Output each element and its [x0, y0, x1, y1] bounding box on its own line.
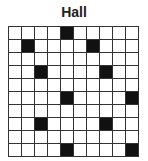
grid-cell [100, 105, 113, 118]
grid-cell [113, 131, 126, 144]
grid-cell [100, 131, 113, 144]
grid-cell [126, 40, 139, 53]
grid-cell [87, 53, 100, 66]
grid-cell [126, 27, 139, 40]
grid-cell [87, 79, 100, 92]
grid-cell [126, 53, 139, 66]
grid-cell [22, 53, 35, 66]
grid-cell [100, 53, 113, 66]
grid-cell [48, 105, 61, 118]
grid-cell [35, 40, 48, 53]
grid-cell [22, 131, 35, 144]
grid-cell [9, 131, 22, 144]
grid-cell [87, 105, 100, 118]
grid-cell [74, 131, 87, 144]
grid-cell [35, 92, 48, 105]
grid-cell [126, 79, 139, 92]
grid-cell [100, 144, 113, 157]
grid-cell [22, 144, 35, 157]
grid-cell [35, 144, 48, 157]
grid-cell [87, 118, 100, 131]
grid-cell [113, 118, 126, 131]
grid-cell [61, 105, 74, 118]
grid-cell [22, 105, 35, 118]
grid-cell-filled [126, 92, 139, 105]
grid-cell [126, 131, 139, 144]
grid-cell [74, 66, 87, 79]
grid-cell [22, 118, 35, 131]
grid-cell [126, 66, 139, 79]
grid-cell [74, 53, 87, 66]
grid-cell [22, 92, 35, 105]
grid-cell [61, 40, 74, 53]
grid-cell [48, 40, 61, 53]
grid-cell [9, 144, 22, 157]
grid-cell-filled [126, 144, 139, 157]
grid-cell [113, 66, 126, 79]
grid-cell [48, 92, 61, 105]
grid-cell-filled [100, 66, 113, 79]
grid-cell [9, 79, 22, 92]
grid-cell [35, 131, 48, 144]
grid-cell [74, 40, 87, 53]
grid-cell [74, 27, 87, 40]
grid-cell [113, 92, 126, 105]
grid-cell [74, 105, 87, 118]
grid-cell [113, 144, 126, 157]
grid-cell [48, 118, 61, 131]
grid-cell [48, 27, 61, 40]
grid-cell [9, 92, 22, 105]
grid-cell [113, 53, 126, 66]
grid-cell-filled [35, 118, 48, 131]
grid-cell-filled [100, 118, 113, 131]
grid-cell [100, 40, 113, 53]
grid-cell [35, 53, 48, 66]
grid-cell [61, 66, 74, 79]
grid-cell [87, 27, 100, 40]
grid-cell [48, 144, 61, 157]
grid-cell [100, 27, 113, 40]
grid-cell [61, 118, 74, 131]
grid-cell [48, 53, 61, 66]
grid-cell [22, 66, 35, 79]
grid-cell-filled [61, 27, 74, 40]
grid-cell [9, 40, 22, 53]
grid-cell [113, 40, 126, 53]
grid-cell [61, 53, 74, 66]
diagram-title: Hall [0, 4, 148, 20]
grid-cell [74, 144, 87, 157]
grid-cell [87, 131, 100, 144]
grid-cell [9, 53, 22, 66]
grid-cell [48, 66, 61, 79]
grid-cell [35, 105, 48, 118]
grid-cell [35, 79, 48, 92]
grid-cell [113, 79, 126, 92]
grid-cell [48, 79, 61, 92]
grid-cell [126, 118, 139, 131]
grid-cell-filled [61, 144, 74, 157]
grid-cell [113, 105, 126, 118]
grid-cell [9, 105, 22, 118]
grid-cell [22, 79, 35, 92]
grid-cell [22, 27, 35, 40]
grid-cell [9, 27, 22, 40]
grid-cell [48, 131, 61, 144]
grid-cell [74, 118, 87, 131]
grid-cell [35, 27, 48, 40]
grid-cell [87, 144, 100, 157]
seating-grid [8, 26, 139, 157]
grid-cell [100, 79, 113, 92]
grid-cell [113, 27, 126, 40]
grid-cell-filled [22, 40, 35, 53]
grid-cell [100, 92, 113, 105]
grid-cell [9, 118, 22, 131]
grid-cell [74, 92, 87, 105]
grid-cell [87, 66, 100, 79]
grid-cell [87, 92, 100, 105]
grid-cell [74, 79, 87, 92]
grid-cell-filled [35, 66, 48, 79]
grid-cell-filled [87, 40, 100, 53]
grid-cell [126, 105, 139, 118]
grid-cell [61, 131, 74, 144]
grid-cell [61, 79, 74, 92]
